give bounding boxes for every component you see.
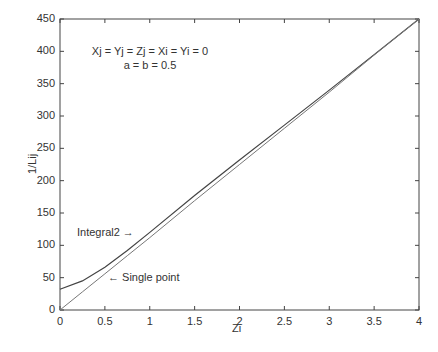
x-tick-label: 3 [314, 315, 344, 327]
x-tick-label: 1 [135, 315, 165, 327]
y-axis-label: 1/Lij [26, 154, 38, 174]
x-tick-label: 3.5 [359, 315, 389, 327]
x-tick-label: 0 [45, 315, 75, 327]
integral2-label: Integral2 → [77, 226, 134, 238]
y-tick-label: 250 [25, 141, 55, 153]
x-tick-label: 0.5 [90, 315, 120, 327]
y-tick-label: 150 [25, 206, 55, 218]
x-axis-label: Zi [232, 322, 241, 334]
x-tick-label: 1.5 [180, 315, 210, 327]
y-tick-label: 350 [25, 77, 55, 89]
x-tick-label: 2.5 [269, 315, 299, 327]
y-tick-label: 200 [25, 174, 55, 186]
y-tick-label: 50 [25, 271, 55, 283]
y-tick-label: 300 [25, 109, 55, 121]
single-point-label: ← Single point [108, 271, 180, 283]
y-tick-label: 0 [25, 303, 55, 315]
y-tick-label: 400 [25, 44, 55, 56]
y-tick-label: 100 [25, 238, 55, 250]
annotation-line-1: Xj = Yj = Zj = Xi = Yi = 0 [70, 45, 230, 57]
x-tick-label: 4 [404, 315, 434, 327]
annotation-line-2: a = b = 0.5 [70, 59, 230, 71]
y-tick-label: 450 [25, 12, 55, 24]
